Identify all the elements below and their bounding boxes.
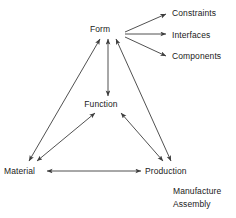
node-constraints: Constraints [172, 8, 216, 18]
edge-form-production [116, 39, 171, 161]
node-assembly: Assembly [173, 199, 211, 209]
node-material: Material [4, 166, 35, 176]
edge-form-components [125, 37, 166, 56]
edge-function-production [121, 113, 163, 161]
diagram-canvas: Form Function Material Production Constr… [0, 0, 236, 218]
edge-form-constraints [125, 14, 166, 32]
node-production: Production [145, 166, 187, 176]
node-components: Components [172, 51, 221, 61]
node-function: Function [84, 99, 117, 109]
node-interfaces: Interfaces [172, 30, 210, 40]
node-manufacture: Manufacture [173, 186, 221, 196]
edge-function-material [37, 113, 95, 161]
node-form: Form [90, 24, 110, 34]
